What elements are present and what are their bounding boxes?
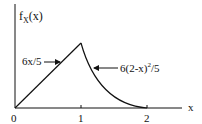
y-axis-label: fX(x) [19,10,43,25]
linear-segment [15,43,81,108]
annotation-left: 6x/5 [22,56,42,67]
x-axis-label: x [188,102,194,113]
tick-label-1: 1 [78,113,84,124]
annotation-right: 6(2-x)2/5 [120,62,160,74]
tick-label-2: 2 [144,113,150,124]
tick-label-0: 0 [11,113,17,124]
quadratic-curve [81,43,147,108]
